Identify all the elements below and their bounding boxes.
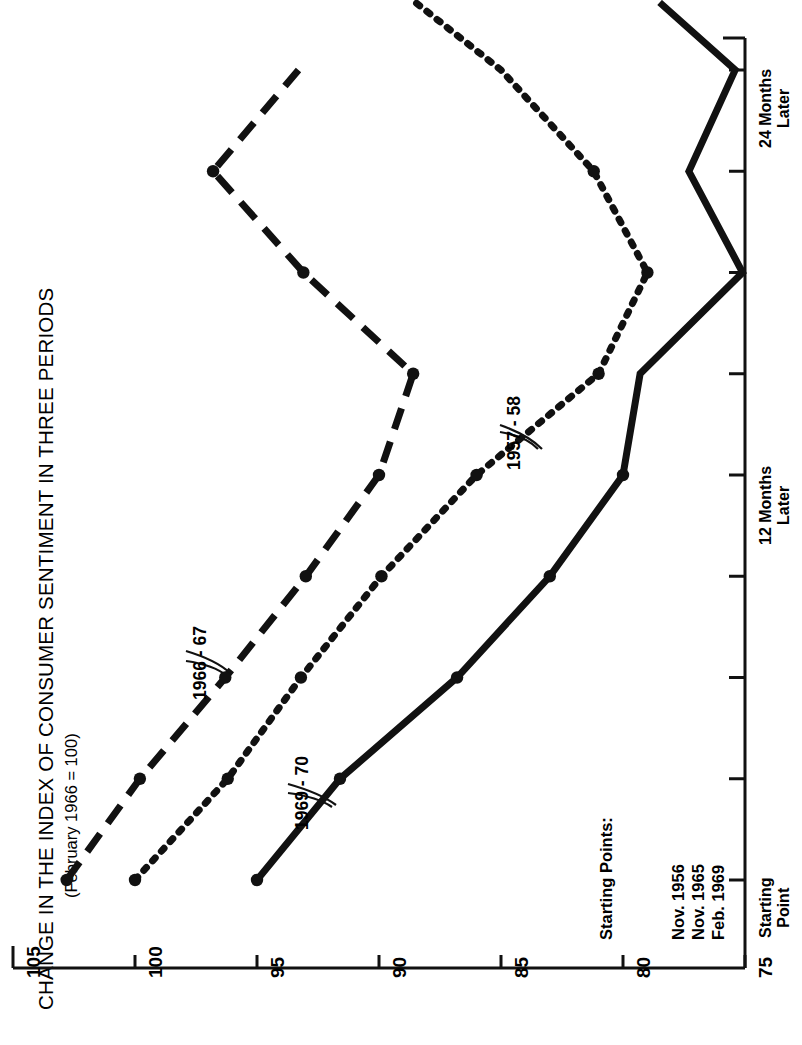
series-line	[135, 3, 647, 881]
data-point	[451, 671, 463, 683]
data-point	[295, 671, 307, 683]
starting-points-list: Nov. 1956Nov. 1965Feb. 1969	[668, 817, 728, 940]
time-axis-tick-label-line2: Later	[775, 466, 793, 545]
starting-points-legend: Starting Points: Nov. 1956Nov. 1965Feb. …	[556, 817, 768, 940]
data-point	[470, 469, 482, 481]
series-line	[257, 3, 743, 881]
data-point	[251, 874, 263, 886]
time-axis-tick-label-line2: Later	[775, 69, 793, 148]
series-label-1957-58: 1957 - 58	[504, 396, 525, 470]
data-point	[641, 266, 653, 278]
data-point	[407, 368, 419, 380]
plot-area: 1051009590858075 StartingPoint12 MonthsL…	[0, 0, 802, 1045]
time-axis-tick-label: 24 MonthsLater	[757, 69, 793, 148]
data-point	[300, 570, 312, 582]
data-point	[544, 570, 556, 582]
data-point	[207, 165, 219, 177]
series-label-1966-67: 1966 - 67	[190, 626, 211, 700]
data-point	[222, 773, 234, 785]
data-point	[334, 773, 346, 785]
series-1969-70	[251, 3, 743, 887]
data-point	[617, 469, 629, 481]
data-point	[129, 874, 141, 886]
data-point	[219, 671, 231, 683]
figure: CHANGE IN THE INDEX OF CONSUMER SENTIMEN…	[0, 0, 802, 1045]
time-axis-tick-label-line1: 12 Months	[757, 466, 775, 545]
data-point	[373, 469, 385, 481]
data-point	[588, 165, 600, 177]
series-label-1969-70: 1969 - 70	[292, 756, 313, 830]
time-axis-tick-label-line1: 24 Months	[757, 69, 775, 148]
data-point	[297, 266, 309, 278]
value-axis-tick-label: 85	[511, 957, 533, 978]
value-axis-tick-label: 75	[755, 957, 777, 978]
starting-point-item: Nov. 1965	[688, 817, 708, 940]
value-axis-tick-label: 105	[23, 946, 45, 978]
starting-point-item: Feb. 1969	[708, 817, 728, 940]
value-axis-tick-label: 95	[267, 957, 289, 978]
starting-points-heading: Starting Points:	[596, 817, 616, 940]
time-axis-tick-label: 12 MonthsLater	[757, 466, 793, 545]
value-axis-tick-label: 90	[389, 957, 411, 978]
starting-point-item: Nov. 1956	[668, 817, 688, 940]
value-axis-tick-label: 100	[145, 946, 167, 978]
value-axis-tick-label: 80	[633, 957, 655, 978]
time-axis-tick-label-line2: Point	[775, 878, 793, 938]
data-point	[60, 874, 72, 886]
data-point	[375, 570, 387, 582]
data-point	[592, 368, 604, 380]
data-point	[134, 773, 146, 785]
